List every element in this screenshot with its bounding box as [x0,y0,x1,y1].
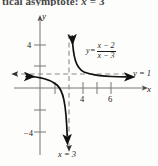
axes-group [14,20,143,155]
y-tick-label-4: 4 [27,41,31,50]
equation-fraction: x − 2 x − 3 [97,42,116,60]
vertical-asymptote-label: x = 3 [58,150,76,159]
equation-equals-sign: = [91,47,96,55]
horizontal-asymptote-label: y = 1 [133,69,151,78]
x-tick-label-4: 4 [80,95,84,104]
equation-denominator: x − 3 [97,52,116,61]
figure-container: tical asymptote: x = 3 [0,0,158,166]
x-tick-label-6: 6 [108,95,112,104]
equation-lhs: y [86,47,90,55]
function-equation-label: y = x − 2 x − 3 [86,42,116,60]
y-axis-label: y [42,12,46,21]
x-axis-label: x [147,85,151,94]
y-tick-label-neg4: −4 [24,129,33,138]
rational-function-plot [0,0,158,166]
